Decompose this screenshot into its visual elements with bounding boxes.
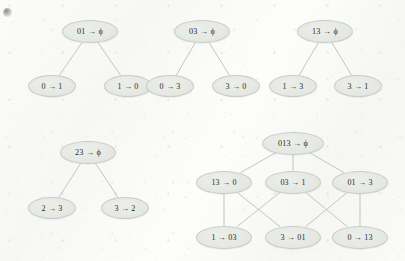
node-target-empty-set-icon: ϕ <box>333 26 338 35</box>
node-target-label: 3 <box>299 81 303 90</box>
arrow-right-icon: → <box>119 203 132 212</box>
graph-node-n-0-13: 0→13 <box>332 226 388 249</box>
node-target-label: 03 <box>228 232 236 241</box>
arrow-right-icon: → <box>321 26 334 35</box>
node-target-label: 01 <box>297 232 305 241</box>
arrow-right-icon: → <box>86 26 99 35</box>
graph-node-n-01-a: 0→1 <box>28 75 76 97</box>
graph-node-n-13-a: 1→3 <box>269 75 317 97</box>
arrow-right-icon: → <box>198 26 211 35</box>
graph-node-n-13-0: 13→0 <box>196 171 252 194</box>
graph-edge <box>176 42 195 75</box>
arrow-right-icon: → <box>289 177 302 186</box>
graph-edge <box>98 42 121 75</box>
node-target-empty-set-icon: ϕ <box>98 26 103 35</box>
node-target-label: 1 <box>58 81 62 90</box>
node-source-label: 013 <box>278 138 291 147</box>
arrow-right-icon: → <box>122 81 135 90</box>
graph-node-n-01-3: 01→3 <box>332 171 388 194</box>
node-target-label: 3 <box>176 81 180 90</box>
graph-node-n-01-root: 01→ϕ <box>62 20 118 43</box>
node-target-label: 3 <box>368 177 372 186</box>
graph-node-n-3-01: 3→01 <box>265 226 321 249</box>
node-source-label: 03 <box>189 26 198 35</box>
node-target-label: 0 <box>232 177 236 186</box>
graph-edge <box>59 42 82 75</box>
graph-node-n-23-root: 23→ϕ <box>60 141 116 164</box>
graph-edge <box>209 42 230 75</box>
arrow-right-icon: → <box>46 81 59 90</box>
node-source-label: 13 <box>211 177 219 186</box>
node-source-label: 13 <box>312 26 321 35</box>
graph-node-n-1-03: 1→03 <box>196 226 252 249</box>
graph-node-n-13-root: 13→ϕ <box>297 20 353 43</box>
node-target-label: 0 <box>242 81 246 90</box>
graph-node-n-03-b: 3→0 <box>212 75 260 97</box>
arrow-right-icon: → <box>84 147 97 156</box>
graph-node-n-013-root: 013→ϕ <box>262 132 324 155</box>
graph-edge <box>332 42 352 75</box>
node-target-label: 3 <box>58 203 62 212</box>
node-target-label: 2 <box>131 203 135 212</box>
arrow-right-icon: → <box>230 81 243 90</box>
node-source-label: 01 <box>347 177 355 186</box>
node-source-label: 01 <box>77 26 86 35</box>
graph-node-n-23-b: 3→2 <box>101 197 149 219</box>
graph-node-n-13-b: 3→1 <box>334 75 382 97</box>
arrow-right-icon: → <box>356 177 369 186</box>
graph-edge <box>59 163 81 197</box>
graph-edge <box>240 153 276 173</box>
figure-canvas: 01→ϕ0→11→003→ϕ0→33→013→ϕ1→33→123→ϕ2→33→2… <box>0 0 405 261</box>
arrow-right-icon: → <box>220 177 233 186</box>
graph-node-n-01-b: 1→0 <box>104 75 152 97</box>
arrow-right-icon: → <box>46 203 59 212</box>
graph-edge <box>310 153 344 173</box>
arrow-right-icon: → <box>285 232 298 241</box>
graph-edge <box>299 42 318 75</box>
node-target-label: 13 <box>364 232 372 241</box>
graph-node-n-03-root: 03→ϕ <box>174 20 230 43</box>
node-target-empty-set-icon: ϕ <box>96 147 101 156</box>
node-target-empty-set-icon: ϕ <box>210 26 215 35</box>
node-source-label: 03 <box>280 177 288 186</box>
graph-node-n-03-1: 03→1 <box>265 171 321 194</box>
arrow-right-icon: → <box>287 81 300 90</box>
arrow-right-icon: → <box>352 232 365 241</box>
arrow-right-icon: → <box>291 138 304 147</box>
node-target-empty-set-icon: ϕ <box>304 138 309 147</box>
node-source-label: 23 <box>75 147 84 156</box>
node-target-label: 1 <box>301 177 305 186</box>
node-target-label: 1 <box>364 81 368 90</box>
node-target-label: 0 <box>134 81 138 90</box>
graph-edge <box>95 163 118 197</box>
arrow-right-icon: → <box>216 232 229 241</box>
graph-node-n-23-a: 2→3 <box>28 197 76 219</box>
arrow-right-icon: → <box>352 81 365 90</box>
arrow-right-icon: → <box>164 81 177 90</box>
graph-node-n-03-a: 0→3 <box>146 75 194 97</box>
